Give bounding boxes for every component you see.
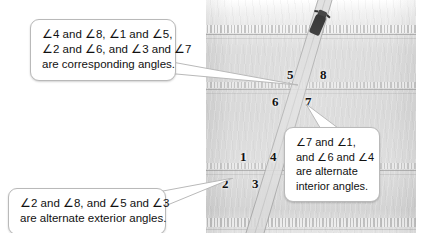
callout-corresponding-line-1: ∠4 and ∠8, ∠1 and ∠5, — [42, 27, 165, 42]
angle-label-3: 3 — [252, 177, 259, 190]
callout-corresponding-angles: ∠4 and ∠8, ∠1 and ∠5, ∠2 and ∠6, and ∠3 … — [30, 19, 176, 81]
callout-alternate-interior-line-3: are alternate — [296, 164, 369, 179]
callout-alternate-exterior-angles: ∠2 and ∠8, and ∠5 and ∠3 are alternate e… — [8, 188, 166, 233]
callout-corresponding-line-2: ∠2 and ∠6, and ∠3 and ∠7 — [42, 42, 165, 57]
callout-alternate-exterior-line-2: are alternate exterior angles. — [20, 211, 155, 226]
callout-alternate-exterior-line-1: ∠2 and ∠8, and ∠5 and ∠3 — [20, 196, 155, 211]
callout-corresponding-line-3: are corresponding angles. — [42, 57, 165, 72]
callout-alternate-interior-line-4: interior angles. — [296, 179, 369, 194]
callout-alternate-interior-angles: ∠7 and ∠1, and ∠6 and ∠4 are alternate i… — [284, 127, 380, 202]
callout-alternate-interior-line-1: ∠7 and ∠1, — [296, 135, 369, 150]
angle-label-1: 1 — [240, 150, 247, 163]
angle-label-8: 8 — [320, 68, 327, 81]
figure-canvas: 5 8 6 7 1 4 2 3 ∠4 and ∠8, ∠1 and ∠5, ∠2… — [0, 0, 423, 233]
angle-label-4: 4 — [270, 150, 277, 163]
callout-alternate-interior-line-2: and ∠6 and ∠4 — [296, 150, 369, 165]
angle-label-6: 6 — [272, 95, 279, 108]
